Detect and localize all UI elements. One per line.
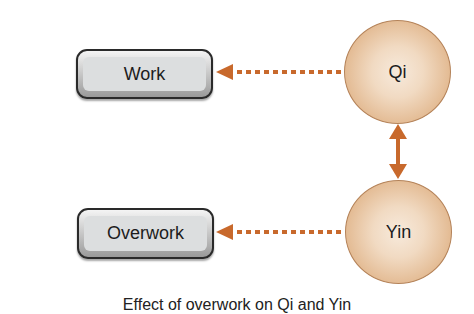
arrow-yin-to-overwork: [216, 224, 341, 240]
yin-label: Yin: [386, 222, 411, 243]
figure-caption: Effect of overwork on Qi and Yin: [0, 296, 474, 314]
arrow-qi-to-work: [216, 64, 341, 80]
double-arrow-qi-yin: [389, 124, 407, 179]
qi-label: Qi: [389, 62, 407, 83]
yin-node: Yin: [345, 180, 452, 284]
qi-node: Qi: [344, 20, 451, 124]
